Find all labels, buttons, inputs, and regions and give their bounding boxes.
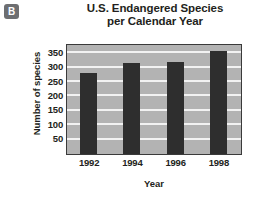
panel-badge-b: B	[4, 4, 19, 19]
y-tick-150: 150	[37, 104, 63, 115]
chart-title: U.S. Endangered Species per Calendar Yea…	[58, 2, 252, 27]
bar-1992	[80, 73, 97, 155]
y-tick-100: 100	[37, 119, 63, 130]
x-tick-1998: 1998	[202, 157, 236, 168]
chart-title-line2: per Calendar Year	[58, 15, 252, 28]
bar-1994	[123, 63, 140, 154]
y-tick-200: 200	[37, 90, 63, 101]
y-tick-300: 300	[37, 61, 63, 72]
x-tick-1996: 1996	[159, 157, 193, 168]
chart-title-line1: U.S. Endangered Species	[87, 2, 223, 14]
y-tick-250: 250	[37, 76, 63, 87]
bar-1998	[210, 51, 227, 154]
x-axis-tick-labels: 1992199419961998	[66, 157, 242, 171]
bar-1996	[167, 62, 184, 154]
chart-figure: B U.S. Endangered Species per Calendar Y…	[0, 0, 254, 204]
y-tick-50: 50	[37, 133, 63, 144]
x-tick-1992: 1992	[72, 157, 106, 168]
x-tick-1994: 1994	[115, 157, 149, 168]
x-axis-title: Year	[66, 178, 242, 189]
plot-inner	[67, 45, 241, 154]
y-axis-tick-labels: 50100150200250300350	[33, 44, 63, 155]
y-tick-350: 350	[37, 47, 63, 58]
plot-area	[66, 44, 242, 155]
